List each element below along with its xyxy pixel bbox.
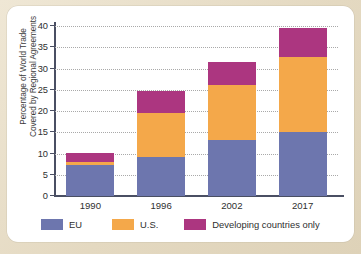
legend-item-eu: EU [41, 219, 82, 230]
y-axis-tick-label: 40 [38, 21, 48, 31]
legend-item-developing: Developing countries only [184, 219, 319, 230]
y-axis-tick-label: 15 [38, 127, 48, 137]
legend-item-us: U.S. [112, 219, 158, 230]
legend-label-eu: EU [69, 219, 82, 230]
y-axis-title: Percentage of World Trade Covered by Reg… [18, 0, 39, 156]
y-axis-tick-label: 30 [38, 64, 48, 74]
y-axis-title-line-1: Percentage of World Trade [18, 0, 28, 156]
bar-group[interactable] [137, 26, 185, 196]
axes: 0510152025303540 1990199620022017 [55, 26, 338, 196]
legend: EU U.S. Developing countries only [37, 219, 337, 230]
legend-swatch-developing [184, 219, 206, 230]
plot-area: Percentage of World Trade Covered by Reg… [7, 6, 354, 242]
bars-container [55, 26, 338, 196]
legend-label-us: U.S. [140, 219, 158, 230]
bar-segment[interactable] [66, 162, 114, 165]
bar-segment[interactable] [66, 153, 114, 162]
bar-segment[interactable] [279, 28, 327, 57]
x-axis-tick-label: 1996 [121, 200, 201, 211]
bar-segment[interactable] [137, 157, 185, 196]
bar-segment[interactable] [279, 57, 327, 132]
bar-group[interactable] [208, 26, 256, 196]
x-axis-tick-label: 2017 [263, 200, 343, 211]
bar-segment[interactable] [208, 62, 256, 85]
legend-swatch-eu [41, 219, 63, 230]
bar-group[interactable] [66, 26, 114, 196]
y-axis-tick-label: 5 [43, 170, 48, 180]
chart-panel: Percentage of World Trade Covered by Reg… [7, 6, 354, 242]
bar-segment[interactable] [137, 91, 185, 114]
bar-segment[interactable] [208, 140, 256, 196]
y-axis-tick-label: 0 [43, 191, 48, 201]
bar-segment[interactable] [208, 85, 256, 140]
bar-segment[interactable] [279, 132, 327, 196]
legend-swatch-us [112, 219, 134, 230]
x-axis-tick-label: 2002 [192, 200, 272, 211]
x-axis-tick-label: 1990 [50, 200, 130, 211]
y-axis-tick-label: 10 [38, 149, 48, 159]
bar-segment[interactable] [137, 113, 185, 157]
legend-label-developing: Developing countries only [212, 219, 319, 230]
y-axis-tick-label: 20 [38, 106, 48, 116]
bar-group[interactable] [279, 26, 327, 196]
figure-root: Percentage of World Trade Covered by Reg… [0, 0, 361, 254]
y-axis-tick-label: 25 [38, 85, 48, 95]
y-axis-tick-label: 35 [38, 42, 48, 52]
bar-segment[interactable] [66, 165, 114, 196]
